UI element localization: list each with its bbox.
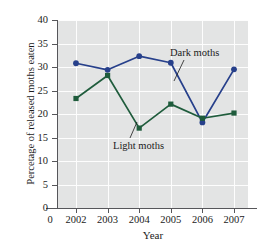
series-light-moths [73, 73, 236, 131]
annotation-dark-moths: Dark moths [170, 47, 219, 58]
series-dark-moths [73, 53, 237, 125]
data-point-marker [105, 67, 111, 73]
annotation-light-moths: Light moths [113, 140, 164, 151]
data-point-marker [136, 53, 142, 59]
data-point-marker [231, 110, 236, 115]
chart-figure: 0510152025303540 02002200320042005200620… [0, 0, 267, 252]
data-point-marker [137, 126, 142, 131]
annotation-leader-light [130, 122, 137, 138]
series-layer [0, 0, 267, 252]
series-line [76, 56, 234, 122]
series-line [76, 75, 234, 128]
data-point-marker [168, 60, 174, 66]
data-point-marker [105, 73, 110, 78]
data-point-marker [73, 96, 78, 101]
data-point-marker [73, 60, 79, 66]
data-point-marker [168, 102, 173, 107]
data-point-marker [200, 116, 205, 121]
data-point-marker [231, 66, 237, 72]
